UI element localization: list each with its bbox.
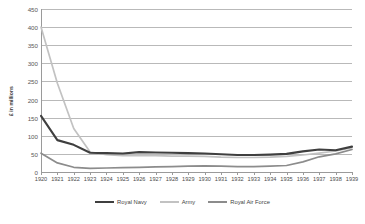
y-axis-tick-label: 300 [28, 60, 38, 67]
x-axis-tick-label: 1925 [117, 176, 129, 182]
legend-label: Royal Air Force [230, 199, 270, 205]
y-axis-tick-label: 450 [28, 6, 38, 13]
x-axis-tick-label: 1938 [329, 176, 341, 182]
legend-item[interactable]: Army [160, 199, 196, 205]
x-axis-tick-mark [41, 172, 42, 175]
plot-area [41, 9, 352, 172]
x-axis-tick-label: 1933 [248, 176, 260, 182]
x-axis-tick-label: 1922 [68, 176, 80, 182]
x-axis-tick-label: 1931 [215, 176, 227, 182]
x-axis-tick-mark [123, 172, 124, 175]
legend-swatch-icon [160, 201, 179, 203]
y-axis-tick-label: 100 [28, 132, 38, 139]
x-axis-tick-label: 1930 [198, 176, 210, 182]
x-axis-tick-mark [106, 172, 107, 175]
y-axis-tick-label: 0 [35, 169, 38, 176]
chart-legend: Royal NavyArmyRoyal Air Force [0, 199, 365, 205]
legend-label: Army [182, 199, 196, 205]
y-axis-tick-labels: 450400350300250200150100500 [14, 9, 40, 172]
x-axis-tick-mark [205, 172, 206, 175]
y-axis-tick-label: 250 [28, 78, 38, 85]
series-line [41, 27, 352, 157]
x-axis-tick-mark [303, 172, 304, 175]
legend-item[interactable]: Royal Air Force [208, 199, 270, 205]
legend-swatch-icon [208, 201, 227, 203]
series-lines [41, 9, 352, 172]
x-axis-tick-label: 1939 [346, 176, 358, 182]
x-axis-tick-label: 1923 [84, 176, 96, 182]
x-axis-tick-mark [319, 172, 320, 175]
x-axis-tick-mark [237, 172, 238, 175]
y-axis-tick-label: 400 [28, 24, 38, 31]
x-axis-tick-mark [287, 172, 288, 175]
x-axis-tick-mark [336, 172, 337, 175]
y-axis-tick-label: 350 [28, 42, 38, 49]
legend-label: Royal Navy [117, 199, 147, 205]
x-axis-tick-mark [156, 172, 157, 175]
x-axis-tick-mark [254, 172, 255, 175]
x-axis-tick-mark [172, 172, 173, 175]
x-axis-tick-label: 1927 [149, 176, 161, 182]
x-axis-tick-label: 1934 [264, 176, 276, 182]
x-axis-tick-mark [188, 172, 189, 175]
x-axis-tick-label: 1920 [35, 176, 47, 182]
x-axis-tick-mark [74, 172, 75, 175]
x-axis-tick-label: 1929 [182, 176, 194, 182]
x-axis-tick-labels: 1920192119221923192419251926192719281929… [41, 176, 352, 188]
x-axis-tick-mark [270, 172, 271, 175]
x-axis-tick-label: 1924 [100, 176, 112, 182]
x-axis-tick-label: 1936 [297, 176, 309, 182]
x-axis-tick-label: 1926 [133, 176, 145, 182]
x-axis-tick-label: 1932 [231, 176, 243, 182]
x-axis-line [41, 172, 352, 173]
x-axis-tick-label: 1928 [166, 176, 178, 182]
x-axis-tick-label: 1935 [280, 176, 292, 182]
x-axis-tick-mark [139, 172, 140, 175]
x-axis-tick-mark [221, 172, 222, 175]
x-axis-tick-mark [352, 172, 353, 175]
x-axis-tick-label: 1937 [313, 176, 325, 182]
x-axis-tick-mark [57, 172, 58, 175]
legend-swatch-icon [95, 201, 114, 203]
y-axis-tick-label: 50 [31, 150, 38, 157]
y-axis-tick-label: 150 [28, 114, 38, 121]
legend-item[interactable]: Royal Navy [95, 199, 147, 205]
x-axis-tick-label: 1921 [51, 176, 63, 182]
line-chart: £ in millions 45040035030025020015010050… [0, 0, 365, 224]
y-axis-tick-label: 200 [28, 96, 38, 103]
x-axis-tick-mark [90, 172, 91, 175]
